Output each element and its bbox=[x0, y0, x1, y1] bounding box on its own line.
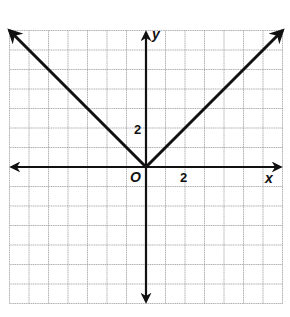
y-axis-label: y bbox=[151, 26, 161, 42]
x-tick-label-2: 2 bbox=[180, 170, 187, 185]
y-tick-label-2: 2 bbox=[134, 122, 141, 137]
graph-ray bbox=[10, 31, 147, 168]
origin-label: O bbox=[130, 169, 141, 185]
x-axis-label: x bbox=[264, 170, 274, 186]
graph-ray bbox=[146, 31, 283, 168]
coordinate-plane: x y O 2 2 bbox=[0, 0, 290, 317]
